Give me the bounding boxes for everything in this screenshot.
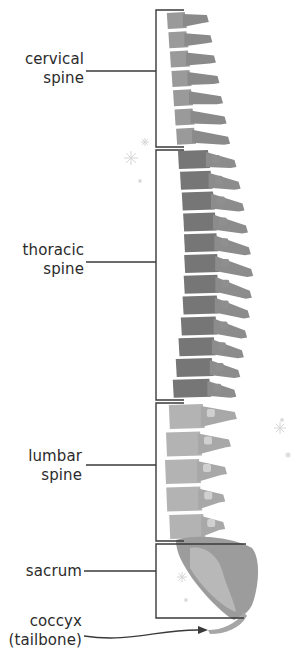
spinous-process (197, 461, 227, 482)
vertebral-body (178, 337, 215, 356)
spinous-process (215, 256, 253, 277)
facet-highlight (207, 519, 215, 527)
sparkle-icon (274, 422, 286, 434)
spinous-process (215, 277, 252, 299)
cervical-vertebra (175, 109, 227, 126)
spinous-process (206, 152, 237, 168)
spinous-process (212, 339, 244, 358)
spinous-process (213, 214, 248, 233)
cervical-vertebra (168, 31, 212, 48)
label-thoracic-line1: thoracic (23, 241, 84, 260)
spinous-process (214, 235, 251, 255)
thoracic-vertebra (173, 379, 237, 398)
spinous-process (192, 130, 230, 145)
label-lumbar-spine: lumbar spine (28, 447, 82, 485)
sparkle-icon (280, 418, 284, 422)
label-cervical-line1: cervical (25, 50, 84, 69)
thoracic-vertebra (184, 233, 251, 255)
label-cervical-spine: cervical spine (25, 50, 84, 88)
thoracic-vertebra (184, 275, 252, 299)
sparkle-icon (141, 138, 149, 146)
label-thoracic-spine: thoracic spine (23, 241, 84, 279)
label-sacrum-line1: sacrum (26, 562, 82, 581)
thoracic-vertebra (184, 254, 253, 277)
sparkle-icon (138, 179, 142, 183)
facet-highlight (213, 384, 221, 392)
vertebral-body (166, 487, 202, 512)
sparkle-icon (285, 452, 291, 458)
label-thoracic-line2: spine (23, 260, 84, 279)
facet-highlight (218, 342, 226, 350)
thoracic-vertebra (182, 192, 245, 212)
spinous-process (186, 53, 216, 66)
spinous-process (191, 111, 227, 125)
vertebral-body (166, 432, 202, 457)
spinous-process (183, 14, 209, 27)
spinous-process (214, 318, 248, 338)
facet-highlight (221, 280, 229, 288)
spinous-process (209, 173, 241, 190)
vertebral-body (180, 171, 213, 190)
cervical-vertebra (173, 89, 223, 106)
vertebral-body (176, 358, 214, 377)
spinous-process (207, 381, 236, 398)
facet-highlight (207, 409, 215, 417)
vertebral-body (169, 404, 205, 429)
facet-highlight (221, 259, 229, 267)
spinous-process (211, 194, 245, 212)
cervical-vertebra (170, 51, 216, 68)
lumbar-vertebra (166, 487, 225, 512)
coccyx-arrow-line (84, 630, 200, 638)
facet-highlight (204, 437, 212, 445)
cervical-vertebra (171, 70, 219, 87)
facet-highlight (221, 301, 229, 309)
spinous-process (198, 489, 225, 510)
label-lumbar-line2: spine (28, 466, 82, 485)
spinous-process (184, 33, 212, 46)
lumbar-vertebra (169, 514, 225, 539)
facet-highlight (203, 464, 211, 472)
facet-highlight (212, 155, 220, 163)
thoracic-vertebra (178, 150, 237, 169)
lumbar-vertebra (165, 459, 227, 484)
thoracic-vertebra (181, 316, 247, 338)
lumbar-vertebra (166, 432, 231, 457)
thoracic-vertebra (180, 171, 241, 190)
cervical-vertebra (167, 12, 209, 29)
facet-highlight (215, 176, 223, 184)
spinous-process (187, 72, 219, 85)
vertebral-body (169, 514, 205, 539)
thoracic-vertebra (176, 358, 241, 378)
vertebral-body (184, 254, 219, 273)
sparkle-icon (184, 598, 188, 602)
label-coccyx: coccyx (tailbone) (8, 612, 82, 650)
facet-highlight (216, 363, 224, 371)
thoracic-vertebra (183, 212, 248, 233)
sparkle-icon (124, 151, 138, 165)
sparkle-icon (177, 572, 187, 582)
facet-highlight (220, 321, 228, 329)
label-coccyx-line1: coccyx (8, 612, 82, 631)
label-sacrum: sacrum (26, 562, 82, 581)
spinous-process (189, 91, 223, 104)
cervical-vertebra (176, 128, 230, 145)
vertebral-body (182, 192, 215, 211)
lumbar-vertebra (169, 404, 237, 429)
facet-highlight (220, 238, 228, 246)
label-coccyx-line2: (tailbone) (8, 631, 82, 650)
spinous-process (201, 406, 237, 427)
vertebral-body (184, 233, 218, 252)
vertebral-body (181, 316, 218, 335)
spinous-process (215, 298, 250, 319)
spine-diagram (0, 0, 296, 654)
label-cervical-line2: spine (25, 69, 84, 88)
spinous-process (210, 360, 241, 378)
vertebral-body (165, 459, 201, 484)
vertebral-body (178, 150, 210, 169)
facet-highlight (204, 492, 212, 500)
facet-highlight (217, 197, 225, 205)
thoracic-vertebra (183, 296, 250, 319)
arrowhead-icon (198, 626, 208, 634)
vertebral-body (173, 379, 212, 398)
facet-highlight (219, 217, 227, 225)
